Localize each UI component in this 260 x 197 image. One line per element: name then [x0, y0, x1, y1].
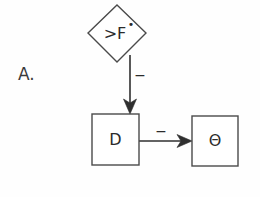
regulatory-network-diagram: A. − − >F • D Θ — [0, 0, 260, 197]
node-fstar: >F • — [88, 5, 146, 62]
node-theta: Θ — [192, 116, 238, 166]
edge-fstar-to-d-sign: − — [134, 67, 146, 83]
node-theta-label: Θ — [209, 131, 222, 150]
edge-d-to-theta-sign: − — [155, 123, 167, 139]
node-d-label: D — [109, 130, 121, 149]
edge-fstar-to-d: − — [124, 55, 146, 114]
edge-d-to-theta: − — [139, 123, 192, 148]
node-fstar-superscript: • — [128, 18, 135, 31]
figure-panel: A. − − >F • D Θ — [0, 0, 260, 197]
node-d: D — [92, 114, 139, 165]
node-fstar-label: >F — [104, 24, 127, 43]
panel-letter: A. — [18, 64, 35, 84]
